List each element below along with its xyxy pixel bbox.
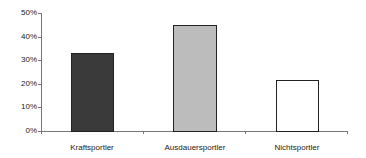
x-tick: [41, 131, 42, 134]
y-tick-label: 10%: [21, 103, 37, 111]
x-tick: [347, 131, 348, 134]
x-tick: [245, 131, 246, 134]
y-tick-label: 40%: [21, 33, 37, 41]
y-tick: [38, 84, 42, 85]
y-tick: [38, 60, 42, 61]
x-tick: [143, 131, 144, 134]
y-tick: [38, 107, 42, 108]
y-tick-label: 20%: [21, 80, 37, 88]
x-category-label: Ausdauersportler: [145, 143, 245, 152]
y-tick: [38, 13, 42, 14]
bar-nichtsportler: [276, 80, 319, 132]
bar-ausdauersportler: [173, 25, 217, 132]
y-tick: [38, 37, 42, 38]
x-category-label: Nichtsportler: [247, 143, 347, 152]
y-tick-label: 30%: [21, 56, 37, 64]
y-tick-label: 50%: [21, 9, 37, 17]
bar-chart: 0% 10% 20% 30% 40% 50% Kraftsportler Aus…: [0, 0, 366, 158]
x-category-label: Kraftsportler: [42, 143, 142, 152]
y-axis: [41, 13, 42, 131]
y-tick-label: 0%: [25, 127, 37, 135]
bar-kraftsportler: [71, 53, 114, 132]
